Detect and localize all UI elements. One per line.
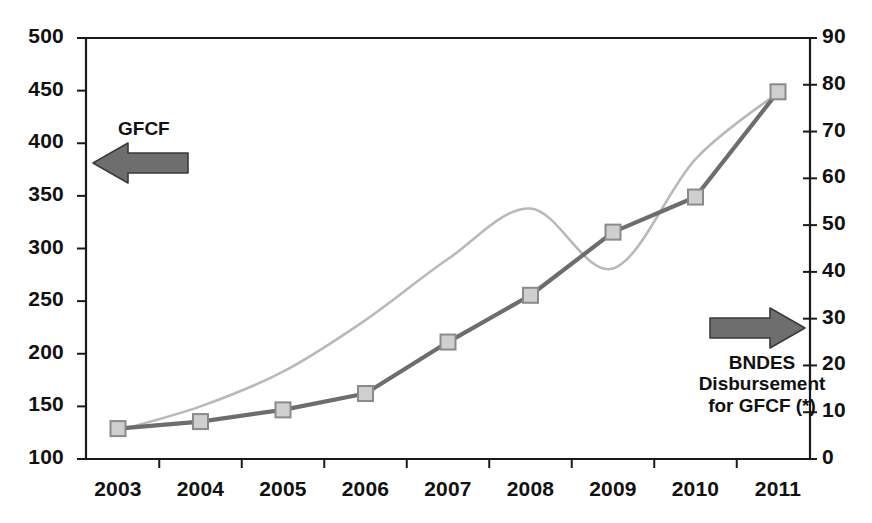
chart-container: 500450400350300250200150100 908070605040… xyxy=(0,0,872,523)
left-axis-ticks xyxy=(77,38,86,459)
x-axis-tick-2005: 2005 xyxy=(238,477,328,501)
x-axis-tick-2011: 2011 xyxy=(733,477,823,501)
data-marker-2003 xyxy=(111,421,126,436)
left-axis-tick-100: 100 xyxy=(0,445,64,469)
right-axis-tick-40: 40 xyxy=(822,258,872,282)
annotation-gfcf-label: GFCF xyxy=(118,118,170,139)
data-marker-2008 xyxy=(523,288,538,303)
annotation-bndes-line1: BNDES xyxy=(672,352,852,373)
right-axis-tick-60: 60 xyxy=(822,164,872,188)
left-axis-tick-200: 200 xyxy=(0,340,64,364)
left-axis-tick-450: 450 xyxy=(0,77,64,101)
data-marker-2010 xyxy=(688,190,703,205)
x-axis-tick-2007: 2007 xyxy=(403,477,493,501)
right-axis-tick-30: 30 xyxy=(822,305,872,329)
x-axis-tick-2010: 2010 xyxy=(651,477,741,501)
annotation-gfcf: GFCF xyxy=(118,118,170,139)
annotation-bndes-line2: Disbursement xyxy=(672,373,852,394)
left-axis-tick-150: 150 xyxy=(0,392,64,416)
left-axis-tick-300: 300 xyxy=(0,235,64,259)
x-axis-ticks xyxy=(159,459,737,468)
right-axis-tick-0: 0 xyxy=(822,445,872,469)
x-axis-tick-2006: 2006 xyxy=(321,477,411,501)
right-axis-tick-80: 80 xyxy=(822,71,872,95)
data-marker-2004 xyxy=(193,414,208,429)
data-marker-2009 xyxy=(606,225,621,240)
right-arrow-icon xyxy=(710,308,805,348)
left-axis-tick-500: 500 xyxy=(0,24,64,48)
right-axis-tick-70: 70 xyxy=(822,118,872,142)
right-axis-tick-90: 90 xyxy=(822,24,872,48)
data-marker-2005 xyxy=(276,402,291,417)
x-axis-tick-2004: 2004 xyxy=(156,477,246,501)
right-axis-tick-50: 50 xyxy=(822,211,872,235)
x-axis-tick-2009: 2009 xyxy=(568,477,658,501)
left-arrow-icon xyxy=(93,143,188,183)
data-marker-2011 xyxy=(771,84,786,99)
left-axis-tick-400: 400 xyxy=(0,129,64,153)
x-axis-tick-2008: 2008 xyxy=(486,477,576,501)
chart-plot-area xyxy=(0,0,872,523)
left-axis-tick-350: 350 xyxy=(0,182,64,206)
x-axis-tick-2003: 2003 xyxy=(73,477,163,501)
data-marker-2006 xyxy=(358,386,373,401)
annotation-bndes-line3: for GFCF (*) xyxy=(672,395,852,416)
annotation-bndes: BNDES Disbursement for GFCF (*) xyxy=(672,352,852,416)
left-axis-tick-250: 250 xyxy=(0,287,64,311)
data-marker-2007 xyxy=(441,335,456,350)
